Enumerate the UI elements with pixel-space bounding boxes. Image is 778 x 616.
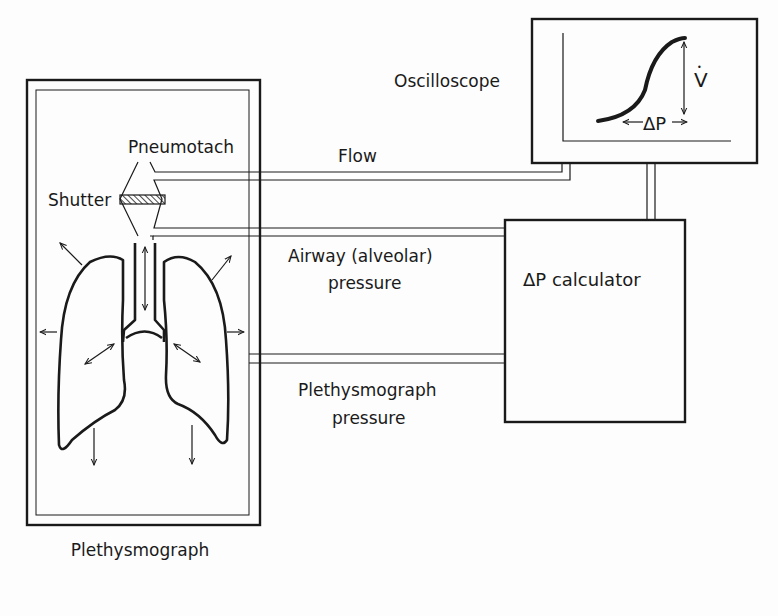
expansion-arrow-upper-right: [212, 256, 231, 280]
left-lung-bidirectional-arrow: [85, 344, 114, 364]
pneumotach-label: Pneumotach: [128, 137, 234, 157]
plethysmograph-pressure-label-line1: Plethysmograph: [298, 380, 437, 400]
oscilloscope-v-dot: •: [697, 63, 702, 72]
calculator-to-oscilloscope-link: [647, 163, 655, 220]
airway-pressure-tube: [153, 228, 505, 236]
shutter-icon: [120, 195, 165, 204]
flow-label: Flow: [338, 146, 377, 166]
oscilloscope-box: [532, 19, 757, 163]
airway-pressure-label-line2: pressure: [328, 273, 401, 293]
expansion-arrow-upper-left: [60, 243, 82, 265]
dp-calculator-label: ΔP calculator: [523, 269, 641, 290]
shutter-label: Shutter: [48, 190, 111, 210]
plethysmograph-diagram: Plethysmograph Pneumotach Shutter Fl: [0, 0, 778, 616]
plethysmograph-pressure-label-line2: pressure: [332, 408, 405, 428]
dp-calculator-box: [505, 220, 685, 422]
airway-pressure-label-line1: Airway (alveolar): [288, 246, 433, 266]
plethysmograph-label: Plethysmograph: [71, 540, 210, 560]
right-lung-bidirectional-arrow: [174, 344, 200, 362]
lungs-icon: [58, 243, 228, 449]
oscilloscope-label: Oscilloscope: [394, 71, 500, 91]
plethysmograph-pressure-tube: [249, 354, 505, 363]
oscilloscope-dp-label: ΔP: [643, 113, 666, 134]
oscilloscope-trace: [598, 38, 685, 121]
